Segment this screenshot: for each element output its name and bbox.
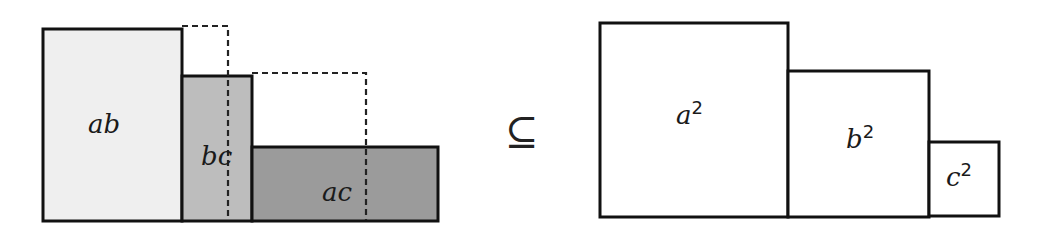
left-diagram: ab bc ac xyxy=(43,26,438,221)
diagram-canvas: ab bc ac ⊆ a2 b2 c2 xyxy=(0,0,1051,240)
subset-or-equal-symbol: ⊆ xyxy=(505,108,539,154)
square-a2 xyxy=(600,23,788,217)
label-bc: bc xyxy=(201,141,233,171)
right-diagram: a2 b2 c2 xyxy=(600,23,999,217)
label-ac: ac xyxy=(322,177,353,207)
label-ab: ab xyxy=(88,109,120,139)
